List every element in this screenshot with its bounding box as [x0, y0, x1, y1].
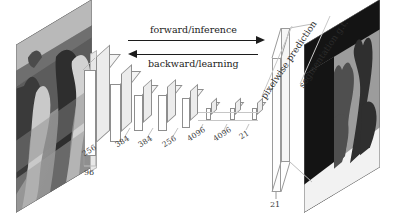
- dim-label-256-conv5: 256: [161, 134, 178, 150]
- conv-block-3-side: [143, 79, 152, 123]
- dim-label-21-prediction: 21: [270, 200, 280, 209]
- forward-inference-label: forward/inference: [150, 24, 237, 35]
- input-image-plane: [16, 0, 92, 213]
- conv-block-5-side: [190, 84, 198, 121]
- figure-canvas: forward/inference backward/learning 96 2…: [0, 0, 394, 224]
- dim-label-21-score: 21: [238, 128, 251, 141]
- fc-rail: [198, 112, 258, 113]
- dim-label-4096-fc7: 4096: [212, 125, 234, 143]
- dim-label-384-conv4: 384: [137, 134, 154, 150]
- conv-block-5-front: [182, 98, 190, 128]
- conv-block-2-front: [110, 84, 121, 142]
- input-image: [16, 0, 92, 213]
- fc-rail-lower: [198, 120, 258, 121]
- prediction-slab-back: [281, 28, 290, 162]
- conv-block-1-side: [96, 44, 110, 143]
- conv-block-2-side: [121, 64, 132, 132]
- dim-label-96: 96: [84, 168, 94, 177]
- conv-block-4-front: [158, 95, 167, 131]
- conv-block-4-side: [167, 79, 176, 123]
- conv-block-3-front: [134, 95, 143, 131]
- input-photo-graphic: [16, 0, 92, 213]
- backward-learning-label: backward/learning: [148, 58, 239, 69]
